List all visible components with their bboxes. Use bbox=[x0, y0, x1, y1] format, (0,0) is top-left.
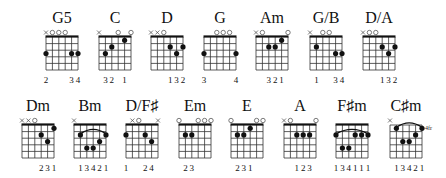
chord-diagram: C♯m4fr13421 bbox=[379, 92, 433, 178]
open-string-icon bbox=[129, 30, 133, 34]
finger-number: 4 bbox=[338, 76, 346, 85]
finger-dot-icon bbox=[394, 126, 399, 131]
finger-dot-icon bbox=[413, 132, 418, 137]
open-string-icon bbox=[202, 118, 206, 122]
finger-dot-icon bbox=[339, 51, 344, 56]
open-string-icon bbox=[63, 30, 67, 34]
finger-dot-icon bbox=[266, 44, 271, 49]
finger-dot-icon bbox=[419, 126, 424, 131]
finger-dot-icon bbox=[180, 44, 185, 49]
open-string-icon bbox=[116, 30, 120, 34]
finger-dot-icon bbox=[365, 132, 370, 137]
finger-number: 2 bbox=[108, 76, 116, 85]
finger-dot-icon bbox=[39, 132, 44, 137]
fretboard-grid bbox=[88, 4, 148, 84]
open-string-icon bbox=[57, 30, 61, 34]
chord-diagram: G/B134 bbox=[299, 4, 353, 90]
chord-diagram: D/F♯124 bbox=[115, 92, 169, 178]
finger-dot-icon bbox=[392, 44, 397, 49]
finger-dot-icon bbox=[103, 51, 108, 56]
fretboard-grid bbox=[11, 92, 71, 172]
finger-dot-icon bbox=[314, 44, 319, 49]
finger-dot-icon bbox=[400, 139, 405, 144]
fretboard-grid bbox=[193, 4, 253, 84]
open-string-icon bbox=[229, 118, 233, 122]
open-string-icon bbox=[314, 118, 318, 122]
finger-number: 4 bbox=[232, 76, 240, 85]
finger-dot-icon bbox=[235, 132, 240, 137]
finger-dot-icon bbox=[294, 132, 299, 137]
finger-dot-icon bbox=[407, 139, 412, 144]
finger-dot-icon bbox=[201, 51, 206, 56]
chord-diagram: D/A132 bbox=[352, 4, 406, 90]
fretboard-grid: 4fr bbox=[379, 92, 439, 172]
finger-dot-icon bbox=[149, 139, 154, 144]
finger-dot-icon bbox=[241, 132, 246, 137]
chord-diagram: Dm231 bbox=[11, 92, 65, 178]
open-string-icon bbox=[261, 118, 265, 122]
open-string-icon bbox=[209, 118, 213, 122]
open-string-icon bbox=[321, 30, 325, 34]
finger-number: 3 bbox=[306, 164, 314, 173]
chord-diagram: E231 bbox=[220, 92, 274, 178]
fretboard-grid bbox=[325, 92, 385, 172]
finger-number: 2 bbox=[42, 76, 50, 85]
fretboard-grid bbox=[299, 4, 359, 84]
chord-diagram: C321 bbox=[88, 4, 142, 90]
finger-dot-icon bbox=[248, 126, 253, 131]
open-string-icon bbox=[327, 30, 331, 34]
finger-dot-icon bbox=[51, 126, 56, 131]
finger-dot-icon bbox=[380, 44, 385, 49]
finger-dot-icon bbox=[78, 132, 83, 137]
finger-number: 2 bbox=[179, 76, 187, 85]
fretboard-grid bbox=[273, 92, 333, 172]
finger-dot-icon bbox=[340, 146, 345, 151]
finger-dot-icon bbox=[109, 44, 114, 49]
finger-dot-icon bbox=[189, 132, 194, 137]
open-string-icon bbox=[288, 118, 292, 122]
fretboard-grid bbox=[245, 4, 305, 84]
open-string-icon bbox=[221, 30, 225, 34]
finger-dot-icon bbox=[123, 132, 128, 137]
finger-number: 1 bbox=[246, 164, 254, 173]
finger-dot-icon bbox=[91, 146, 96, 151]
finger-number: 1 bbox=[102, 164, 110, 173]
chord-diagram: Am321 bbox=[245, 4, 299, 90]
finger-dot-icon bbox=[122, 38, 127, 43]
finger-number: 3 bbox=[200, 76, 208, 85]
finger-dot-icon bbox=[69, 51, 74, 56]
finger-dot-icon bbox=[103, 132, 108, 137]
finger-dot-icon bbox=[43, 51, 48, 56]
open-string-icon bbox=[215, 30, 219, 34]
fretboard-grid bbox=[63, 92, 123, 172]
finger-dot-icon bbox=[84, 146, 89, 151]
fretboard-grid bbox=[220, 92, 280, 172]
open-string-icon bbox=[286, 30, 290, 34]
chord-diagram: G34 bbox=[193, 4, 247, 90]
open-string-icon bbox=[260, 30, 264, 34]
finger-dot-icon bbox=[174, 51, 179, 56]
chord-diagram: F♯m134111 bbox=[325, 92, 379, 178]
finger-dot-icon bbox=[333, 51, 338, 56]
finger-number: 1 bbox=[418, 164, 426, 173]
open-string-icon bbox=[33, 118, 37, 122]
finger-number: 1 bbox=[121, 76, 129, 85]
finger-dot-icon bbox=[279, 38, 284, 43]
fretboard-grid bbox=[352, 4, 412, 84]
svg-text:4fr: 4fr bbox=[425, 125, 432, 131]
fretboard-grid bbox=[140, 4, 200, 84]
finger-dot-icon bbox=[301, 132, 306, 137]
open-string-icon bbox=[196, 118, 200, 122]
chord-diagram: Em23 bbox=[168, 92, 222, 178]
finger-dot-icon bbox=[307, 132, 312, 137]
finger-dot-icon bbox=[183, 132, 188, 137]
fretboard-grid bbox=[168, 92, 228, 172]
finger-dot-icon bbox=[97, 139, 102, 144]
finger-dot-icon bbox=[386, 51, 391, 56]
finger-dot-icon bbox=[75, 51, 80, 56]
finger-number: 1 bbox=[122, 164, 130, 173]
open-string-icon bbox=[367, 30, 371, 34]
open-string-icon bbox=[254, 118, 258, 122]
finger-number: 1 bbox=[364, 164, 372, 173]
open-string-icon bbox=[50, 30, 54, 34]
